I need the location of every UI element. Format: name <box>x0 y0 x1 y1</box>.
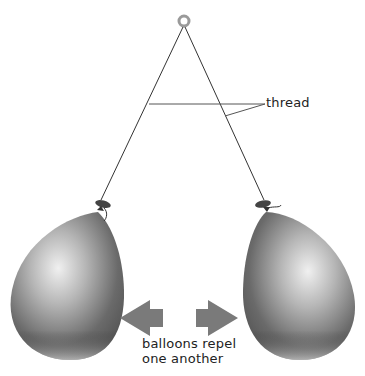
diagram-canvas <box>0 0 365 376</box>
thread-label: thread <box>266 95 310 110</box>
caption-line-1: balloons repel <box>142 336 236 351</box>
thread-right <box>185 27 264 200</box>
arrow-left-icon <box>120 300 163 336</box>
thread-left <box>101 27 183 200</box>
thread-leader-line-2 <box>225 104 265 116</box>
repel-caption: balloons repel one another <box>142 336 236 366</box>
caption-line-2: one another <box>142 351 236 366</box>
balloon-left <box>11 199 124 360</box>
support-ring-icon <box>179 16 189 26</box>
balloon-right <box>243 199 355 360</box>
arrow-right-icon <box>196 300 238 336</box>
